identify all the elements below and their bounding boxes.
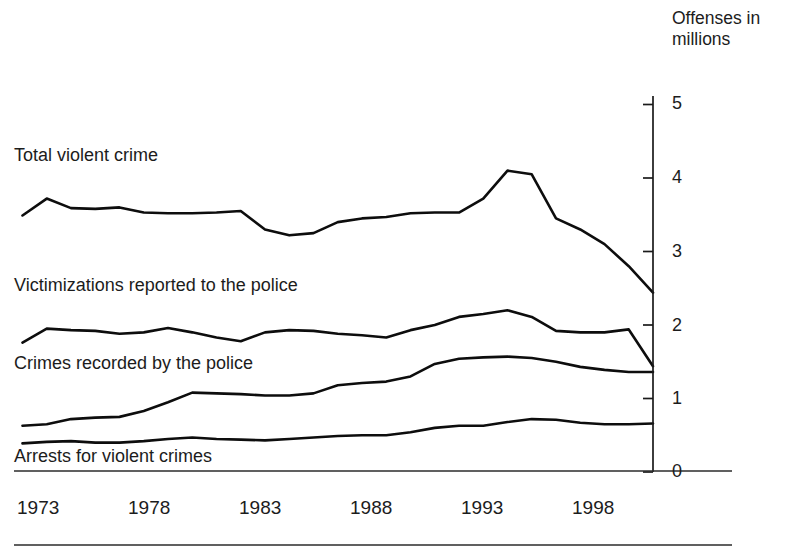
series-label-victimizations-reported: Victimizations reported to the police	[14, 275, 298, 296]
x-tick-label-1993: 1993	[461, 497, 503, 519]
y-tick-label-5: 5	[672, 93, 682, 114]
x-tick-label-1983: 1983	[239, 497, 281, 519]
x-tick-label-1978: 1978	[128, 497, 170, 519]
y-axis-title-line2: millions	[672, 29, 730, 49]
y-axis-title-line1: Offenses in	[672, 8, 760, 28]
y-tick-label-0: 0	[672, 461, 682, 482]
y-tick-label-1: 1	[672, 388, 682, 409]
x-tick-label-1988: 1988	[350, 497, 392, 519]
y-tick-label-3: 3	[672, 241, 682, 262]
series-label-arrests: Arrests for violent crimes	[14, 446, 212, 467]
series-label-total-violent-crime: Total violent crime	[14, 145, 158, 166]
y-tick-label-2: 2	[672, 315, 682, 336]
x-tick-label-1998: 1998	[572, 497, 614, 519]
series-line-arrests	[23, 419, 654, 443]
y-axis-title: Offenses inmillions	[672, 8, 760, 50]
y-tick-label-4: 4	[672, 167, 682, 188]
series-label-crimes-recorded: Crimes recorded by the police	[14, 353, 253, 374]
series-lines	[23, 171, 654, 444]
x-tick-label-1973: 1973	[17, 497, 59, 519]
chart-figure: Offenses inmillions 5 4 3 2 1 0 Total vi…	[0, 0, 785, 553]
